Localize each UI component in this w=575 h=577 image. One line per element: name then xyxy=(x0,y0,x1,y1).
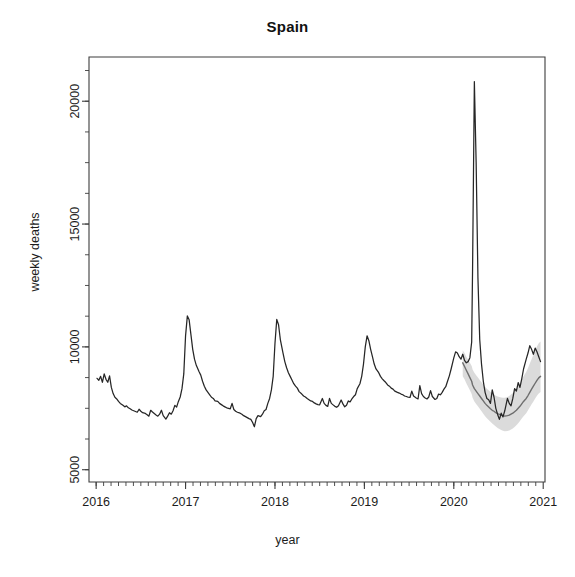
plot-area: 201620172018201920202021 500010000150002… xyxy=(0,0,575,577)
x-tick-label: 2016 xyxy=(82,495,110,509)
y-tick-label: 15000 xyxy=(68,207,82,242)
y-axis-ticks xyxy=(82,71,89,470)
x-axis-ticks xyxy=(96,482,543,489)
x-tick-label: 2018 xyxy=(261,495,289,509)
axis-box: 201620172018201920202021 500010000150002… xyxy=(68,57,557,509)
y-axis-tick-labels: 5000100001500020000 xyxy=(68,84,82,484)
x-tick-label: 2021 xyxy=(529,495,557,509)
x-tick-label: 2020 xyxy=(440,495,468,509)
prediction-interval-band xyxy=(463,341,541,431)
y-tick-label: 10000 xyxy=(68,329,82,364)
x-axis-tick-labels: 201620172018201920202021 xyxy=(82,495,557,509)
y-tick-label: 5000 xyxy=(68,456,82,484)
x-tick-label: 2017 xyxy=(172,495,200,509)
x-tick-label: 2019 xyxy=(350,495,378,509)
y-tick-label: 20000 xyxy=(68,84,82,119)
figure-panel: Spain weekly deaths year 201620172018201… xyxy=(0,0,575,577)
